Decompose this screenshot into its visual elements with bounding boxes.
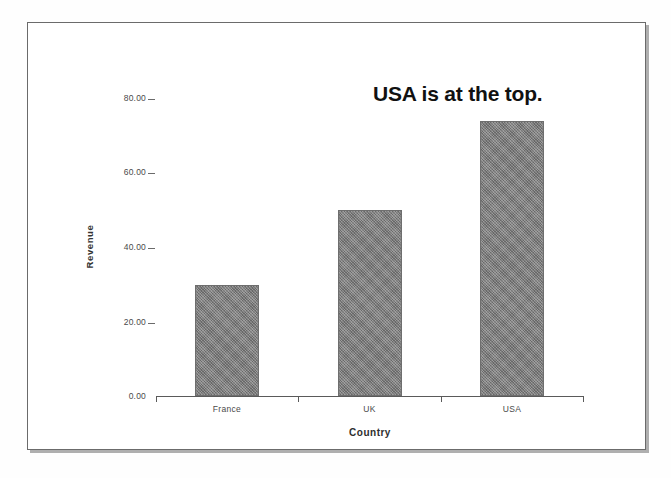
x-tick-mark-start [156,396,157,402]
y-tick-group-80: 80.00 [92,94,146,104]
y-tick-group-0: 0.00 [92,392,146,402]
y-tick-label-40: 40.00 [100,243,146,252]
x-axis-line [156,396,584,397]
bar-chart-plot-area: Revenue 80.00 60.00 40.00 20.00 0.00 [28,23,645,449]
y-tick-group-20: 20.00 [92,318,146,328]
y-tick-mark-40 [148,248,155,249]
chart-annotation-text: USA is at the top. [373,82,542,106]
x-tick-label-uk: UK [298,404,441,414]
y-tick-label-80: 80.00 [100,94,146,103]
x-tick-mark-end [583,396,584,402]
x-tick-label-usa: USA [441,404,583,414]
x-tick-label-france: France [156,404,298,414]
x-axis-title: Country [156,427,584,438]
y-tick-label-60: 60.00 [100,168,146,177]
bar-uk[interactable] [338,210,402,396]
y-tick-mark-60 [148,173,155,174]
x-tick-mark-2 [441,396,442,402]
chart-figure-frame: Revenue 80.00 60.00 40.00 20.00 0.00 [27,22,646,450]
y-tick-group-40: 40.00 [92,243,146,253]
x-tick-mark-1 [298,396,299,402]
scanned-page: Revenue 80.00 60.00 40.00 20.00 0.00 [0,0,671,478]
y-tick-mark-20 [148,323,155,324]
y-tick-group-60: 60.00 [92,168,146,178]
y-tick-label-0: 0.00 [100,392,146,401]
y-tick-label-20: 20.00 [100,318,146,327]
bar-usa[interactable] [480,121,544,396]
y-tick-mark-80 [148,99,155,100]
bar-france[interactable] [195,285,259,396]
